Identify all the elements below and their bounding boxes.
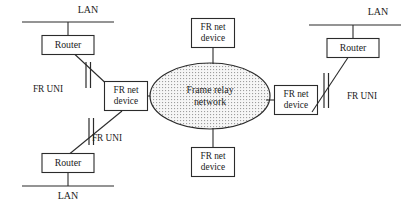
router-top-right-group[interactable]: Router: [327, 39, 379, 58]
network-diagram-canvas: LAN Router FR UNI LAN Router: [0, 0, 411, 208]
router-bottom-left-group[interactable]: Router: [42, 154, 94, 173]
link-frdev-right-router: [312, 58, 348, 113]
network-diagram: LAN Router FR UNI LAN Router: [0, 0, 411, 208]
fr-net-device-left-group[interactable]: FR net device: [105, 82, 148, 111]
lan-bottom-left-group: LAN: [22, 173, 114, 202]
lan-top-right-group: LAN: [309, 6, 401, 38]
fr-uni-bottom-left-label: FR UNI: [92, 133, 122, 143]
fr-net-device-right-label-line2: device: [284, 100, 308, 110]
fr-net-device-top-label-line2: device: [201, 33, 225, 43]
lan-top-left-group: LAN: [22, 4, 114, 35]
fr-uni-top-left-label: FR UNI: [33, 84, 63, 94]
router-bottom-left-label: Router: [55, 157, 82, 168]
fr-net-device-top-group[interactable]: FR net device: [192, 19, 235, 48]
fr-net-device-right-label-line1: FR net: [283, 89, 308, 99]
fr-net-device-left-label-line1: FR net: [113, 85, 138, 95]
router-top-left-label: Router: [55, 39, 82, 50]
fr-net-device-left-label-line2: device: [114, 96, 138, 106]
lan-top-left-label: LAN: [78, 4, 99, 15]
fr-net-device-bottom-label-line2: device: [201, 162, 225, 172]
frame-relay-cloud-label-line2: network: [194, 96, 226, 107]
lan-bottom-left-label: LAN: [58, 190, 79, 201]
frame-relay-cloud-label-line1: Frame relay: [186, 84, 233, 95]
lan-top-right-label: LAN: [368, 6, 389, 17]
frame-relay-cloud-group[interactable]: Frame relay network: [150, 63, 270, 129]
fr-net-device-top-label-line1: FR net: [200, 22, 225, 32]
router-top-right-label: Router: [340, 42, 367, 53]
fr-net-device-right-group[interactable]: FR net device: [275, 86, 318, 115]
router-top-left-group[interactable]: Router: [42, 36, 94, 55]
fr-net-device-bottom-group[interactable]: FR net device: [192, 148, 235, 177]
fr-net-device-bottom-label-line1: FR net: [200, 151, 225, 161]
fr-uni-right-label: FR UNI: [347, 91, 377, 101]
